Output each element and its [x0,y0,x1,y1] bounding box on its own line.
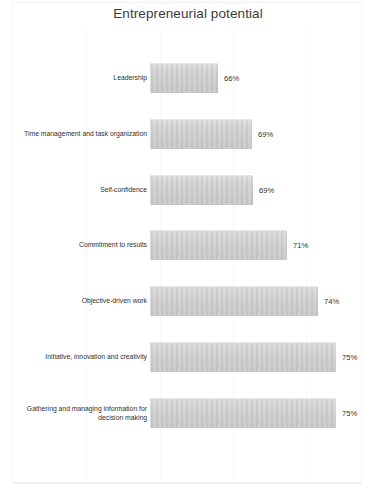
plot-area: Leadership66%Time management and task or… [0,0,376,503]
bar-category-label: Initiative, innovation and creativity [12,352,147,362]
bar-value-label: 71% [293,241,308,250]
bar-track [150,63,218,93]
chart-container: Entrepreneurial potential Leadership66%T… [0,0,376,503]
bar[interactable] [150,342,336,372]
bar-row: Self-confidence69% [0,170,376,210]
bar-row: Leadership66% [0,58,376,98]
bar-category-label: Gathering and managing information for d… [12,403,147,422]
bar-value-label: 75% [342,353,357,362]
bar-value-label: 69% [259,185,274,194]
bar-track [150,119,252,149]
bar[interactable] [150,230,287,260]
bar-track [150,230,287,260]
bar-value-label: 69% [258,129,273,138]
bar[interactable] [150,119,252,149]
bar-value-label: 74% [324,297,339,306]
bar-value-label: 66% [224,74,239,83]
bar[interactable] [150,175,253,205]
bar-row: Initiative, innovation and creativity75% [0,337,376,377]
bar-row: Gathering and managing information for d… [0,393,376,433]
bar-row: Objective-driven work74% [0,281,376,321]
bar-category-label: Objective-driven work [12,296,147,306]
bar-value-label: 75% [342,408,357,417]
bar[interactable] [150,286,318,316]
bar-row: Commitment to results71% [0,225,376,265]
bar-track [150,398,336,428]
bar-track [150,286,318,316]
bar[interactable] [150,398,336,428]
bar-category-label: Time management and task organization [12,129,147,139]
bar-category-label: Commitment to results [12,241,147,251]
bar-category-label: Self-confidence [12,185,147,195]
bar[interactable] [150,63,218,93]
bar-category-label: Leadership [12,73,147,83]
bar-track [150,342,336,372]
bar-row: Time management and task organization69% [0,114,376,154]
bar-track [150,175,253,205]
